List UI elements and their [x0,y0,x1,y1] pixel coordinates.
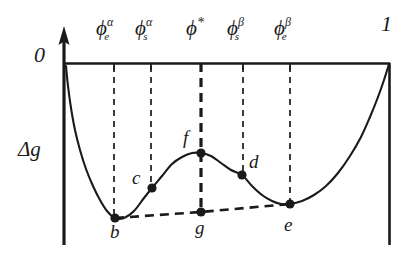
tick-label-phi-s-beta: ϕβs [227,18,248,39]
point-label-e: e [284,215,292,234]
tick-label-subscript: e [282,30,287,42]
data-point-e [285,199,294,208]
diagram-canvas [0,0,413,255]
free-energy-curve [66,64,389,219]
y-axis-label: Δg [18,139,41,160]
tick-label-phi-star: ϕ* [186,18,204,39]
point-label-f: f [183,128,188,147]
free-energy-diagram: 0 1 Δg ϕαeϕαsϕ*ϕβsϕβe bcfdeg [0,0,413,255]
data-point-d [237,170,246,179]
point-label-g: g [195,218,205,237]
point-label-b: b [110,222,120,241]
tick-label-superscript: α [146,15,152,29]
tick-label-superscript: α [107,15,113,29]
tick-label-superscript: β [238,15,244,29]
tick-label-phi-s-alpha: ϕαs [135,18,156,39]
tick-label-subscript: e [104,30,109,42]
data-point-g [196,207,205,216]
data-point-c [147,183,156,192]
tick-label-phi-e-alpha: ϕαe [96,18,118,39]
point-label-c: c [132,168,140,187]
tick-label-superscript: * [197,15,204,30]
right-axis-label: 1 [381,13,392,35]
tick-label-subscript: s [143,30,147,42]
origin-label: 0 [34,44,45,66]
tick-label-subscript: s [235,30,239,42]
tick-label-phi-e-beta: ϕβe [274,18,296,39]
data-point-f [196,148,205,157]
tick-label-superscript: β [285,15,291,29]
tick-label-base: ϕ [186,16,197,40]
point-label-d: d [249,152,259,171]
y-axis [59,26,70,245]
